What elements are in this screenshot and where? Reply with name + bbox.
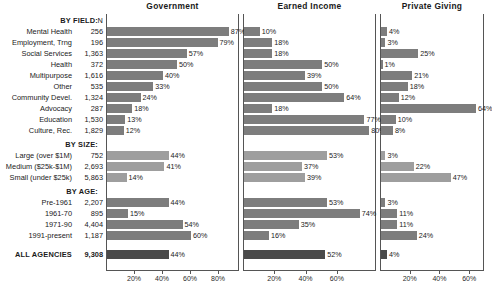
row-label: Advocacy bbox=[0, 105, 72, 112]
bar-value-label-government: 24% bbox=[143, 94, 157, 101]
row-count: 535 bbox=[76, 83, 103, 90]
bar-government bbox=[107, 60, 177, 69]
bar-government bbox=[107, 209, 128, 218]
bar-value-label-earned_income: 35% bbox=[301, 221, 315, 228]
bar-private_giving bbox=[381, 250, 387, 259]
axis-tick-label-0-2: 60% bbox=[177, 275, 203, 282]
bar-earned_income bbox=[244, 27, 260, 36]
bar-private_giving bbox=[381, 60, 383, 69]
row-label: Mental Health bbox=[0, 28, 72, 35]
bar-value-label-earned_income: 39% bbox=[307, 174, 321, 181]
axis-tick-label-1-2: 60% bbox=[324, 275, 350, 282]
bar-earned_income bbox=[244, 162, 302, 171]
bar-private_giving bbox=[381, 82, 408, 91]
bar-value-label-private_giving: 4% bbox=[389, 28, 399, 35]
bar-value-label-government: 79% bbox=[220, 39, 234, 46]
bar-value-label-earned_income: 10% bbox=[262, 28, 276, 35]
row-label: Health bbox=[0, 61, 72, 68]
bar-private_giving bbox=[381, 220, 397, 229]
bar-government bbox=[107, 104, 132, 113]
bar-value-label-earned_income: 77% bbox=[366, 116, 380, 123]
group-header-2: BY AGE: bbox=[0, 188, 98, 195]
axis-tick-label-1-0: 20% bbox=[261, 275, 287, 282]
axis-tick-1-1 bbox=[306, 271, 307, 274]
row-label: ALL AGENCIES bbox=[0, 251, 72, 258]
bar-earned_income bbox=[244, 198, 327, 207]
axis-tick-1-0 bbox=[274, 271, 275, 274]
row-count: 196 bbox=[76, 39, 103, 46]
bar-value-label-government: 57% bbox=[189, 50, 203, 57]
axis-tick-2-1 bbox=[439, 271, 440, 274]
row-count: 1,187 bbox=[76, 232, 103, 239]
bar-value-label-earned_income: 37% bbox=[304, 163, 318, 170]
bar-private_giving bbox=[381, 38, 385, 47]
bar-value-label-government: 33% bbox=[155, 83, 169, 90]
bar-value-label-private_giving: 3% bbox=[387, 39, 397, 46]
bar-government bbox=[107, 250, 169, 259]
bar-private_giving bbox=[381, 151, 385, 160]
row-count: 9,308 bbox=[76, 251, 103, 258]
bar-value-label-earned_income: 39% bbox=[307, 72, 321, 79]
bar-value-label-private_giving: 10% bbox=[398, 116, 412, 123]
axis-tick-2-0 bbox=[410, 271, 411, 274]
bar-value-label-government: 44% bbox=[171, 152, 185, 159]
row-label: Medium ($25k-$1M) bbox=[0, 163, 72, 170]
axis-tick-label-0-0: 20% bbox=[121, 275, 147, 282]
bar-value-label-private_giving: 24% bbox=[419, 232, 433, 239]
column-header-n: N bbox=[78, 17, 103, 24]
bar-earned_income bbox=[244, 173, 305, 182]
bar-government bbox=[107, 49, 187, 58]
bar-value-label-earned_income: 50% bbox=[324, 61, 338, 68]
axis-tick-0-2 bbox=[190, 271, 191, 274]
axis-line-0 bbox=[106, 270, 239, 271]
bar-value-label-government: 41% bbox=[166, 163, 180, 170]
row-label: Culture, Rec. bbox=[0, 127, 72, 134]
bar-value-label-private_giving: 12% bbox=[401, 94, 415, 101]
bar-government bbox=[107, 93, 141, 102]
axis-tick-label-0-3: 80% bbox=[205, 275, 231, 282]
bar-value-label-private_giving: 47% bbox=[453, 174, 467, 181]
bar-value-label-government: 60% bbox=[193, 232, 207, 239]
bar-value-label-private_giving: 21% bbox=[414, 72, 428, 79]
row-label: 1961-70 bbox=[0, 210, 72, 217]
bar-value-label-government: 40% bbox=[165, 72, 179, 79]
bar-earned_income bbox=[244, 60, 322, 69]
row-count: 287 bbox=[76, 105, 103, 112]
bar-earned_income bbox=[244, 93, 344, 102]
row-count: 5,863 bbox=[76, 174, 103, 181]
bar-value-label-government: 13% bbox=[127, 116, 141, 123]
bar-government bbox=[107, 82, 153, 91]
bar-government bbox=[107, 198, 169, 207]
row-label: Large (over $1M) bbox=[0, 152, 72, 159]
bar-government bbox=[107, 151, 169, 160]
bar-government bbox=[107, 126, 124, 135]
bar-value-label-government: 44% bbox=[171, 251, 185, 258]
bar-value-label-government: 18% bbox=[134, 105, 148, 112]
row-count: 2,207 bbox=[76, 199, 103, 206]
bar-private_giving bbox=[381, 27, 387, 36]
bar-value-label-private_giving: 1% bbox=[385, 61, 395, 68]
bar-value-label-private_giving: 18% bbox=[410, 83, 424, 90]
bar-value-label-private_giving: 8% bbox=[395, 127, 405, 134]
bar-government bbox=[107, 162, 164, 171]
bar-earned_income bbox=[244, 220, 299, 229]
group-header-1: BY SIZE: bbox=[0, 141, 98, 148]
bar-private_giving bbox=[381, 126, 393, 135]
axis-tick-label-2-2: 60% bbox=[456, 275, 482, 282]
axis-tick-2-2 bbox=[469, 271, 470, 274]
bar-private_giving bbox=[381, 115, 396, 124]
row-count: 4,404 bbox=[76, 221, 103, 228]
bar-government bbox=[107, 115, 125, 124]
bar-value-label-earned_income: 52% bbox=[327, 251, 341, 258]
row-count: 1,324 bbox=[76, 94, 103, 101]
row-label: Pre-1961 bbox=[0, 199, 72, 206]
bar-private_giving bbox=[381, 93, 399, 102]
row-count: 895 bbox=[76, 210, 103, 217]
bar-value-label-earned_income: 53% bbox=[329, 152, 343, 159]
row-label: Social Services bbox=[0, 50, 72, 57]
bar-earned_income bbox=[244, 38, 272, 47]
bar-value-label-earned_income: 64% bbox=[346, 94, 360, 101]
bar-value-label-private_giving: 25% bbox=[420, 50, 434, 57]
bar-private_giving bbox=[381, 173, 451, 182]
bar-value-label-private_giving: 3% bbox=[387, 152, 397, 159]
